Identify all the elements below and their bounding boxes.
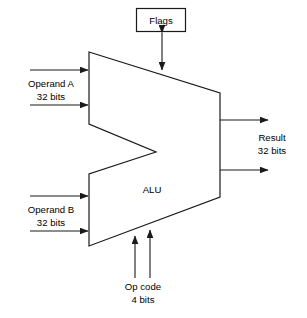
op-code-label-line2: 4 bits: [132, 294, 155, 305]
alu-diagram-svg: Flags ALU Operand A 32 bits Operand B 32…: [0, 0, 307, 318]
op-code-label-line1: Op code: [125, 281, 161, 292]
alu-unit-label: ALU: [143, 184, 162, 195]
result-label-line1: Result: [258, 132, 286, 143]
operand-a-label-line2: 32 bits: [37, 91, 65, 102]
operand-b-label-line1: Operand B: [28, 204, 74, 215]
operand-a-label-line1: Operand A: [28, 78, 74, 89]
alu-diagram-canvas: Flags ALU Operand A 32 bits Operand B 32…: [0, 0, 307, 318]
alu-body-shape: [89, 52, 220, 246]
operand-b-label-line2: 32 bits: [37, 217, 65, 228]
flags-box-label: Flags: [149, 15, 173, 26]
result-label-line2: 32 bits: [258, 145, 286, 156]
